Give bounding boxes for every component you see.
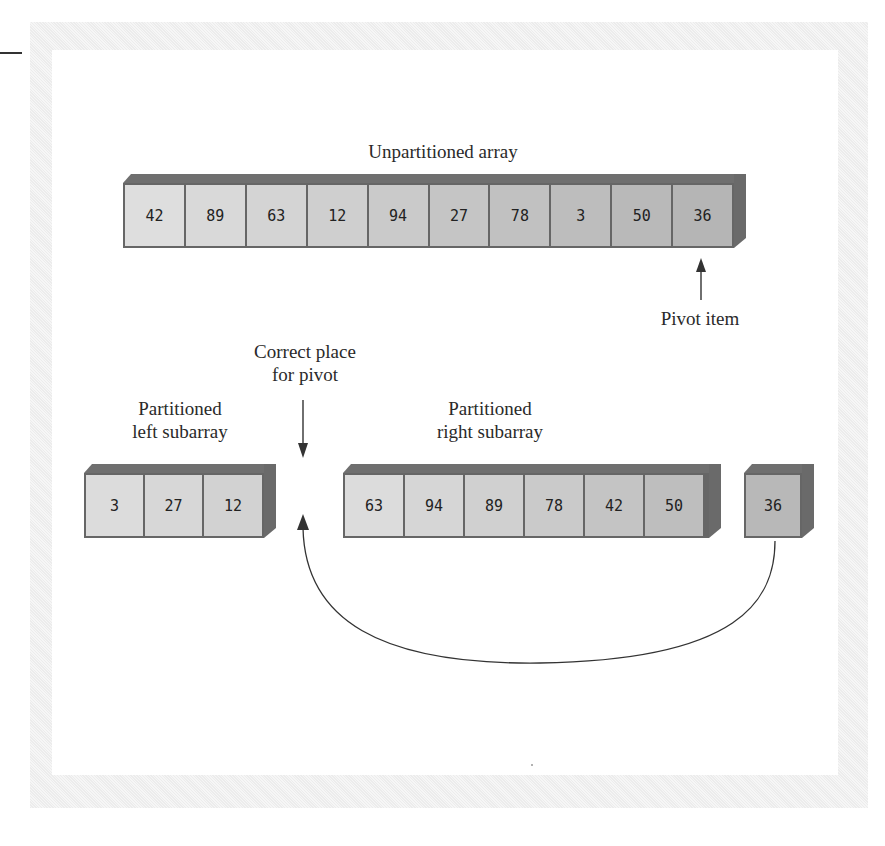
speck: [531, 764, 533, 766]
arrows-layer: [0, 0, 885, 846]
pivot-item-arrow-icon: [696, 258, 706, 300]
move-pivot-curve-arrow-icon: [297, 514, 775, 663]
correct-place-arrow-icon: [298, 400, 308, 458]
